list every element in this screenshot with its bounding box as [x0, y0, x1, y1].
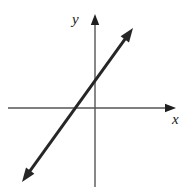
y-axis-label: y: [72, 12, 79, 27]
coordinate-plane-svg: [0, 0, 193, 187]
y-axis-arrow-icon: [91, 14, 99, 25]
x-axis-label: x: [172, 112, 179, 127]
plotted-line: [26, 33, 130, 177]
graph-figure: y x: [0, 0, 193, 187]
